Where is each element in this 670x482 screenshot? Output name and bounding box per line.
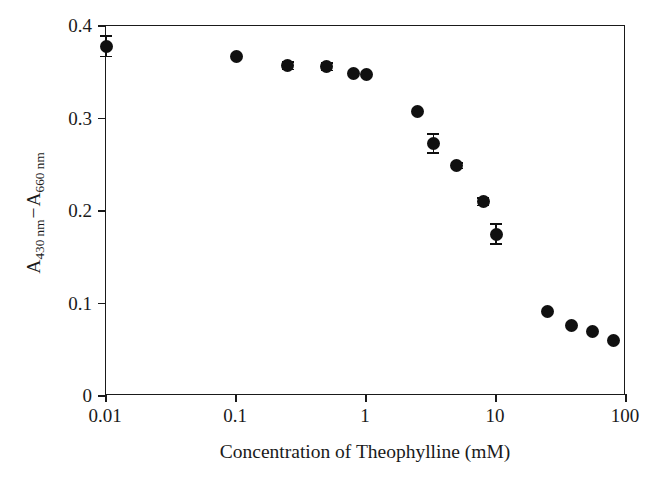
y-axis-tick-labels: 00.10.20.30.4 xyxy=(0,25,92,395)
data-series-layer xyxy=(106,26,624,394)
y-axis-title-sub660: 660 nm xyxy=(32,152,47,192)
chart-figure: 00.10.20.30.4 0.010.1110100 Concentratio… xyxy=(0,0,670,482)
x-axis-tick xyxy=(495,394,497,402)
x-axis-title: Concentration of Theophylline (mM) xyxy=(105,442,625,462)
x-axis-tick-labels: 0.010.1110100 xyxy=(0,406,670,432)
y-axis-title-sub430: 430 nm xyxy=(32,219,47,259)
y-axis-tick-label: 0.4 xyxy=(68,16,92,35)
y-axis-title: A430 nm−A660 nm xyxy=(24,28,46,398)
x-axis-tick-label: 0.1 xyxy=(223,406,247,425)
y-axis-tick-label: 0.3 xyxy=(68,109,92,128)
y-axis-title-a430: A xyxy=(23,260,44,274)
x-axis-tick-label: 1 xyxy=(360,406,370,425)
data-point xyxy=(347,67,360,80)
x-axis-tick-label: 100 xyxy=(611,406,640,425)
x-axis-tick-label: 0.01 xyxy=(88,406,121,425)
data-point xyxy=(360,68,373,81)
x-axis-tick xyxy=(235,394,237,402)
x-axis-tick xyxy=(365,394,367,402)
data-point xyxy=(565,319,578,332)
x-axis-tick xyxy=(625,394,627,402)
data-point xyxy=(586,325,599,338)
y-axis-tick xyxy=(98,303,106,305)
y-axis-tick-label: 0.1 xyxy=(68,294,92,313)
data-point xyxy=(450,159,463,172)
x-axis-tick xyxy=(105,394,107,402)
y-axis-tick xyxy=(98,118,106,120)
x-axis-tick-label: 10 xyxy=(486,406,505,425)
y-axis-tick-label: 0 xyxy=(83,386,93,405)
data-point xyxy=(607,334,620,347)
data-point xyxy=(541,305,554,318)
data-point xyxy=(411,105,424,118)
y-axis-title-minus: − xyxy=(23,206,44,219)
data-point xyxy=(427,137,440,150)
y-axis-tick xyxy=(98,210,106,212)
y-axis-tick xyxy=(98,25,106,27)
plot-area xyxy=(105,25,625,395)
y-axis-tick-label: 0.2 xyxy=(68,201,92,220)
data-point xyxy=(230,50,243,63)
y-axis-title-a660: A xyxy=(23,192,44,206)
data-point xyxy=(490,228,503,241)
data-point xyxy=(100,40,113,53)
